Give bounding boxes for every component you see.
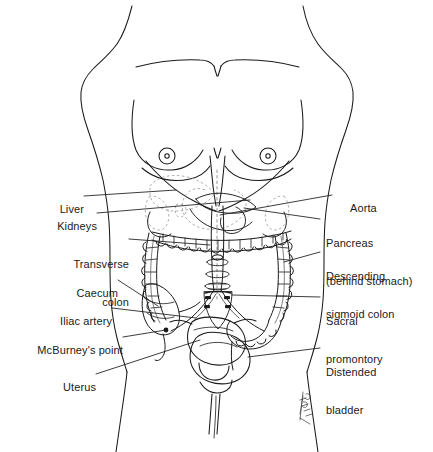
label-iliac-artery-text: Iliac artery [60,315,112,327]
label-mcburneys-point-text: McBurney's point [37,344,123,356]
label-mcburneys-point: McBurney's point [6,331,123,369]
label-transverse-colon-line1: Transverse [12,258,129,271]
label-caecum-text: Caecum [76,287,118,299]
anatomy-figure: Liver Kidneys Transverse colon Caecum Il… [0,0,433,452]
label-uterus: Uterus [12,368,96,406]
label-uterus-text: Uterus [63,381,96,393]
label-distended-bladder-line2: bladder [326,404,376,417]
label-descending-sigmoid-line1: Descending [326,270,395,283]
label-distended-bladder-line1: Distended [326,366,376,379]
label-sacral-promontory-line1: Sacral [326,315,383,328]
label-distended-bladder: Distended bladder [326,341,376,441]
label-kidneys-text: Kidneys [57,220,97,232]
